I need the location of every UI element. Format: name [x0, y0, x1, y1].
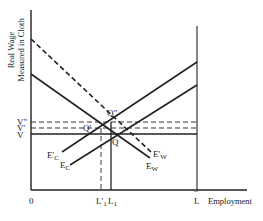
l-bar-label: L [194, 197, 200, 206]
point-q-double-prime: Q" [107, 109, 117, 118]
ew-prime-curve [31, 39, 151, 152]
v-label: V [17, 131, 24, 140]
ew-curve [31, 74, 150, 158]
point-q: Q [112, 138, 119, 147]
diagram-canvas [0, 0, 263, 221]
point-q-prime: Q' [83, 124, 91, 133]
y-axis-label-line2: Measured in Cloth [16, 18, 26, 81]
x-axis-label: Employment [208, 197, 252, 206]
ec-prime-curve [62, 62, 197, 152]
l1-label: L1 [108, 197, 117, 209]
y-axis-label: Real Wage Measured in Cloth [2, 10, 30, 90]
l1-prime-label: L'1 [96, 197, 107, 209]
origin-label: 0 [29, 197, 34, 206]
ew-prime-label: E'W [153, 150, 167, 162]
ew-label: EW [146, 162, 158, 174]
ec-label: EC [60, 161, 70, 173]
ec-prime-label: E'C [47, 151, 59, 163]
